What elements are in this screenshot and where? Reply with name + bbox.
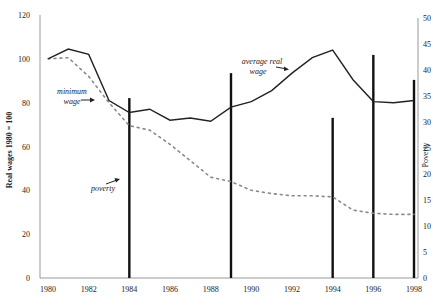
right-tick-label: 30: [423, 118, 431, 127]
left-axis-title: Real wages 1980 = 100: [5, 112, 14, 189]
right-tick-label: 45: [423, 40, 431, 49]
left-tick-label: 80: [22, 99, 30, 108]
left-tick-label: 120: [18, 11, 30, 20]
right-tick-label: 50: [423, 14, 431, 23]
annotation-minimum-wage: minimum: [57, 87, 87, 96]
left-axis-ticks: 020406080100120: [18, 11, 30, 283]
right-tick-label: 20: [423, 170, 431, 179]
wages-poverty-chart: 020406080100120 05101520253035404550 198…: [0, 0, 433, 308]
x-tick-label: 1994: [325, 285, 341, 294]
x-tick-label: 1986: [162, 285, 178, 294]
x-tick-label: 1996: [365, 285, 381, 294]
right-tick-label: 40: [423, 66, 431, 75]
x-tick-label: 1990: [243, 285, 259, 294]
x-tick-label: 1982: [81, 285, 97, 294]
annotation-minimum-wage-2: wage: [64, 97, 81, 106]
left-tick-label: 100: [18, 55, 30, 64]
x-axis-ticks: 1980198219841986198819901992199419961998: [40, 285, 422, 294]
left-tick-label: 40: [22, 186, 30, 195]
right-axis-title: Poverty: [421, 143, 430, 168]
left-tick-label: 20: [22, 230, 30, 239]
x-tick-label: 1980: [40, 285, 56, 294]
right-tick-label: 5: [423, 248, 427, 257]
arrow-icon: [276, 67, 289, 72]
left-tick-label: 60: [22, 143, 30, 152]
annotation-average-real-wage: average real: [242, 57, 283, 66]
left-tick-label: 0: [26, 274, 30, 283]
arrow-icon: [81, 98, 95, 103]
chart-canvas: 020406080100120 05101520253035404550 198…: [0, 0, 433, 308]
right-tick-label: 0: [423, 274, 427, 283]
x-tick-label: 1998: [406, 285, 422, 294]
annotation-poverty: poverty: [90, 184, 115, 193]
x-tick-label: 1984: [121, 285, 137, 294]
x-tick-label: 1988: [203, 285, 219, 294]
annotation-average-real-wage-2: wage: [250, 67, 267, 76]
right-tick-label: 10: [423, 222, 431, 231]
poverty-bars: [129, 55, 414, 278]
x-tick-label: 1992: [284, 285, 300, 294]
right-tick-label: 35: [423, 92, 431, 101]
right-tick-label: 15: [423, 196, 431, 205]
